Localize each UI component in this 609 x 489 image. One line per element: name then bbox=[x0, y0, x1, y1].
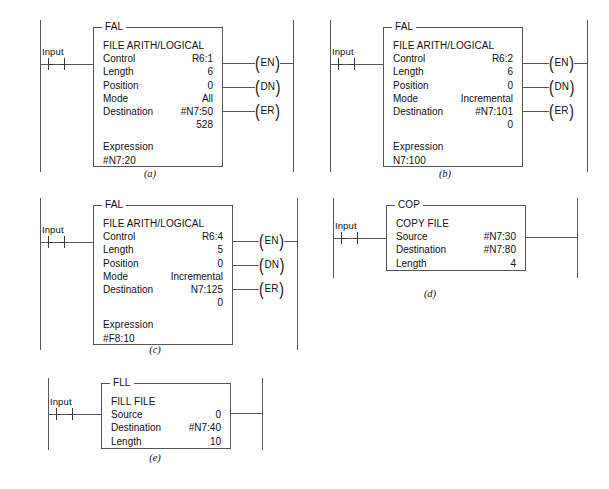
param-row: Control R6:2 bbox=[393, 52, 513, 65]
output-wire-d bbox=[526, 230, 578, 244]
right-power-rail bbox=[587, 20, 588, 172]
block-legend: FAL bbox=[102, 199, 126, 211]
instruction-block-cop-d[interactable]: COP COPY FILE Source #N7:30 Destination … bbox=[386, 205, 526, 271]
param-row: Position 0 bbox=[393, 79, 513, 92]
left-power-rail bbox=[40, 198, 41, 350]
param-row: Destination N7:125 bbox=[103, 283, 223, 296]
coil-glyph: (DN) bbox=[549, 81, 575, 93]
expression-value: #N7:20 bbox=[103, 154, 213, 167]
expression-value: #F8:10 bbox=[103, 332, 223, 345]
expression-value: N7:100 bbox=[393, 154, 513, 167]
param-row: Length 6 bbox=[393, 65, 513, 78]
output-coil-dn[interactable]: (DN) bbox=[223, 80, 289, 94]
param-row: Destination #N7:50 bbox=[103, 105, 213, 118]
input-contact-label: Input bbox=[332, 46, 354, 57]
instruction-block-fal-a[interactable]: FAL FILE ARITH/LOGICAL Control R6:1 Leng… bbox=[93, 27, 223, 167]
expression-label: Expression bbox=[393, 140, 513, 153]
coil-glyph: (EN) bbox=[255, 57, 280, 69]
param-row: Source 0 bbox=[111, 408, 221, 421]
output-coil-er[interactable]: (ER) bbox=[523, 104, 583, 118]
param-row: Mode All bbox=[103, 92, 213, 105]
param-row: Control R6:1 bbox=[103, 52, 213, 65]
rung-c: Input FAL FILE ARITH/LOGICAL Control R6:… bbox=[40, 198, 298, 350]
left-power-rail bbox=[40, 20, 41, 172]
param-row: Mode Incremental bbox=[103, 270, 223, 283]
coil-glyph: (ER) bbox=[259, 283, 284, 295]
destination-value-extra: 0 bbox=[103, 296, 223, 309]
param-row: Control R6:4 bbox=[103, 230, 223, 243]
param-row: Length 6 bbox=[103, 65, 213, 78]
input-contact-label: Input bbox=[50, 396, 72, 407]
output-coil-dn[interactable]: (DN) bbox=[523, 80, 583, 94]
coil-glyph: (EN) bbox=[549, 57, 574, 69]
output-coil-er[interactable]: (ER) bbox=[223, 104, 289, 118]
param-row: Length 10 bbox=[111, 435, 221, 448]
param-row: Position 0 bbox=[103, 257, 223, 270]
destination-value-extra: 528 bbox=[103, 118, 213, 131]
instruction-block-fal-c[interactable]: FAL FILE ARITH/LOGICAL Control R6:4 Leng… bbox=[93, 205, 233, 345]
output-coil-en[interactable]: (EN) bbox=[523, 56, 588, 70]
output-coil-en[interactable]: (EN) bbox=[233, 234, 298, 248]
block-legend: FAL bbox=[102, 21, 126, 33]
param-row: Position 0 bbox=[103, 79, 213, 92]
right-power-rail bbox=[297, 198, 298, 350]
rung-d: Input COP COPY FILE Source #N7:30 Destin… bbox=[333, 198, 578, 278]
expression-label: Expression bbox=[103, 140, 213, 153]
figure-caption-a: (a) bbox=[120, 168, 180, 179]
input-contact-label: Input bbox=[42, 46, 64, 57]
coil-glyph: (ER) bbox=[255, 105, 280, 117]
right-power-rail bbox=[293, 20, 294, 172]
block-title: FILE ARITH/LOGICAL bbox=[103, 39, 213, 52]
block-title: FILE ARITH/LOGICAL bbox=[103, 217, 223, 230]
input-contact-c[interactable]: Input bbox=[40, 234, 93, 250]
instruction-block-fal-b[interactable]: FAL FILE ARITH/LOGICAL Control R6:2 Leng… bbox=[383, 27, 523, 167]
figure-caption-c: (c) bbox=[125, 344, 185, 355]
input-contact-b[interactable]: Input bbox=[330, 56, 383, 72]
output-coil-er[interactable]: (ER) bbox=[233, 282, 293, 296]
output-wire-e bbox=[231, 406, 263, 420]
figure-caption-e: (e) bbox=[125, 452, 185, 463]
input-contact-d[interactable]: Input bbox=[333, 230, 386, 246]
figure-caption-b: (b) bbox=[415, 168, 475, 179]
param-row: Source #N7:30 bbox=[396, 230, 516, 243]
input-contact-label: Input bbox=[42, 224, 64, 235]
param-row: Mode Incremental bbox=[393, 92, 513, 105]
input-contact-label: Input bbox=[335, 220, 357, 231]
param-row: Destination #N7:80 bbox=[396, 243, 516, 256]
block-title: COPY FILE bbox=[396, 217, 516, 230]
instruction-block-fll-e[interactable]: FLL FILL FILE Source 0 Destination #N7:4… bbox=[101, 383, 231, 449]
param-row: Length 4 bbox=[396, 257, 516, 270]
destination-value-extra: 0 bbox=[393, 118, 513, 131]
coil-glyph: (ER) bbox=[549, 105, 574, 117]
coil-glyph: (DN) bbox=[259, 259, 285, 271]
input-contact-e[interactable]: Input bbox=[48, 406, 101, 422]
block-title: FILE ARITH/LOGICAL bbox=[393, 39, 513, 52]
rung-b: Input FAL FILE ARITH/LOGICAL Control R6:… bbox=[330, 20, 588, 172]
param-row: Length 5 bbox=[103, 243, 223, 256]
param-row: Destination #N7:40 bbox=[111, 421, 221, 434]
output-coil-en[interactable]: (EN) bbox=[223, 56, 294, 70]
output-coil-dn[interactable]: (DN) bbox=[233, 258, 293, 272]
block-title: FILL FILE bbox=[111, 395, 221, 408]
block-legend: COP bbox=[395, 199, 423, 211]
block-legend: FLL bbox=[110, 377, 134, 389]
coil-glyph: (DN) bbox=[255, 81, 281, 93]
input-contact-a[interactable]: Input bbox=[40, 56, 93, 72]
expression-label: Expression bbox=[103, 318, 223, 331]
rung-a: Input FAL FILE ARITH/LOGICAL Control R6:… bbox=[40, 20, 294, 172]
block-legend: FAL bbox=[392, 21, 416, 33]
rung-e: Input FLL FILL FILE Source 0 Destination… bbox=[48, 378, 263, 450]
param-row: Destination #N7:101 bbox=[393, 105, 513, 118]
figure-caption-d: (d) bbox=[400, 288, 460, 299]
left-power-rail bbox=[330, 20, 331, 172]
coil-glyph: (EN) bbox=[259, 235, 284, 247]
